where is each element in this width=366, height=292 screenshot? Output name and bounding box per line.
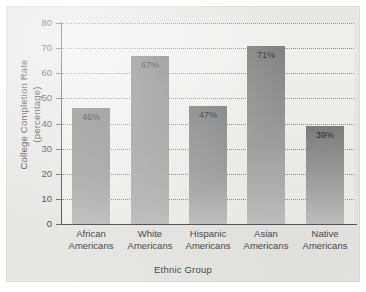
y-tick-label-0: 0 bbox=[6, 218, 52, 229]
y-tick-label-60: 60 bbox=[6, 67, 52, 78]
bar-african-americans: 46% bbox=[72, 108, 110, 224]
y-tick-mark-0 bbox=[56, 224, 62, 225]
chart-figure: College Completion Rate (percentage) 010… bbox=[6, 6, 360, 282]
bar-value-label: 39% bbox=[306, 130, 344, 140]
x-tick-label-line: Americans bbox=[288, 240, 362, 252]
y-tick-label-50: 50 bbox=[6, 92, 52, 103]
bar-value-label: 46% bbox=[72, 112, 110, 122]
y-tick-label-80: 80 bbox=[6, 17, 52, 28]
bar-native-americans: 39% bbox=[306, 126, 344, 224]
bar-white-americans: 67% bbox=[131, 56, 169, 224]
bar-hispanic-americans: 47% bbox=[189, 106, 227, 224]
bar-value-label: 71% bbox=[247, 50, 285, 60]
x-axis-line bbox=[61, 224, 357, 225]
y-tick-label-20: 20 bbox=[6, 168, 52, 179]
x-axis-title: Ethnic Group bbox=[6, 264, 360, 275]
bar-value-label: 67% bbox=[131, 60, 169, 70]
y-tick-label-70: 70 bbox=[6, 42, 52, 53]
bar-value-label: 47% bbox=[189, 110, 227, 120]
y-tick-label-40: 40 bbox=[6, 118, 52, 129]
x-tick-label-native-americans: NativeAmericans bbox=[288, 228, 362, 252]
bar-series: 46%67%47%71%39% bbox=[62, 23, 354, 224]
y-tick-label-30: 30 bbox=[6, 143, 52, 154]
x-tick-label-line: Native bbox=[288, 228, 362, 240]
y-tick-label-10: 10 bbox=[6, 193, 52, 204]
bar-asian-americans: 71% bbox=[247, 46, 285, 224]
